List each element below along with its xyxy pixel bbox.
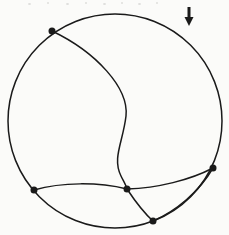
center-bottom-vertex [124, 186, 131, 193]
diagram-canvas [0, 0, 229, 235]
right-vertex [210, 165, 217, 172]
interior-s-curve-v1-to-v4 [52, 31, 127, 189]
edge-layer [34, 31, 213, 221]
bottom-left-vertex [31, 187, 38, 194]
arrow-down-icon [185, 7, 194, 26]
bottom-vertex [150, 218, 157, 225]
chord-v3-to-v4 [34, 184, 127, 190]
arc-v4-to-v5 [127, 189, 153, 221]
arrow-head [185, 17, 194, 26]
circle-graph-figure [0, 0, 229, 235]
arc-v5-to-v2 [153, 168, 213, 221]
annotation-layer [185, 7, 194, 26]
vertex-layer [31, 28, 217, 225]
arrow-shaft [188, 7, 191, 17]
top-left-vertex [49, 28, 56, 35]
